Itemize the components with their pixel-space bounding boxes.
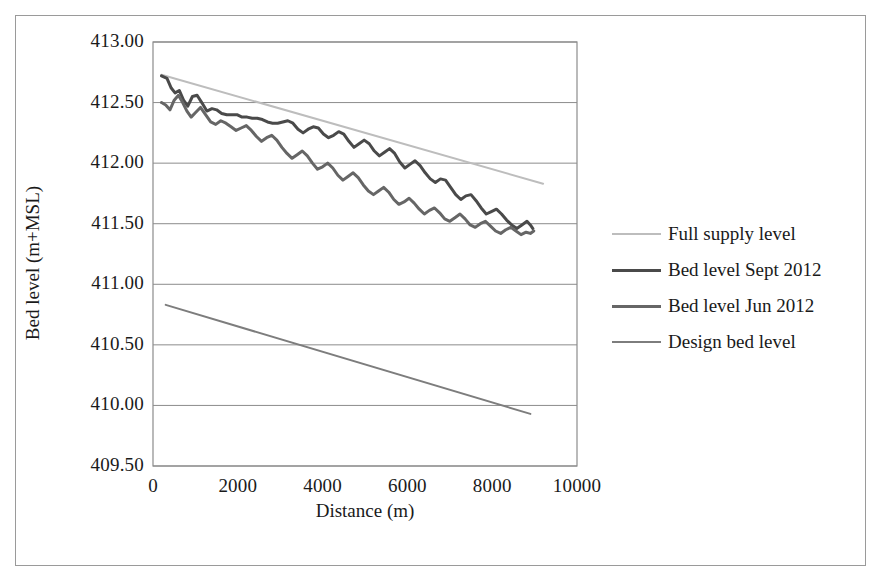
- y-axis-tick-label: 411.00: [48, 272, 144, 294]
- y-axis-tick-label: 412.50: [48, 91, 144, 113]
- series-line-1: [161, 76, 532, 229]
- x-axis-title: Distance (m): [153, 500, 577, 522]
- y-axis-tick-label: 410.50: [48, 333, 144, 355]
- legend-color-swatch: [612, 341, 661, 343]
- y-axis-title: Bed level (m+MSL): [22, 138, 44, 388]
- chart-plot-container: 409.50410.00410.50411.00411.50412.00412.…: [0, 0, 883, 587]
- legend-item-label: Bed level Sept 2012: [668, 259, 822, 281]
- chart-figure: 409.50410.00410.50411.00411.50412.00412.…: [0, 0, 883, 587]
- y-axis-tick-label: 409.50: [48, 454, 144, 476]
- y-axis-tick-label: 410.00: [48, 393, 144, 415]
- legend-item[interactable]: Bed level Jun 2012: [612, 288, 822, 324]
- y-axis-tick-label: 412.00: [48, 151, 144, 173]
- y-axis-tick-label: 411.50: [48, 212, 144, 234]
- plot-area-border: [153, 42, 577, 466]
- legend-item[interactable]: Design bed level: [612, 324, 822, 360]
- y-axis-tick-label: 413.00: [48, 30, 144, 52]
- series-line-0: [161, 75, 543, 184]
- legend-color-swatch: [612, 269, 661, 272]
- legend-item-label: Full supply level: [668, 223, 796, 245]
- x-axis-tick-label: 10000: [522, 475, 632, 497]
- legend-item[interactable]: Bed level Sept 2012: [612, 252, 822, 288]
- series-line-3: [166, 305, 531, 414]
- legend-item-label: Bed level Jun 2012: [668, 295, 814, 317]
- legend-color-swatch: [612, 305, 661, 308]
- legend-item[interactable]: Full supply level: [612, 216, 822, 252]
- legend-item-label: Design bed level: [668, 331, 796, 353]
- legend-color-swatch: [612, 233, 661, 235]
- chart-legend: Full supply levelBed level Sept 2012Bed …: [612, 216, 822, 360]
